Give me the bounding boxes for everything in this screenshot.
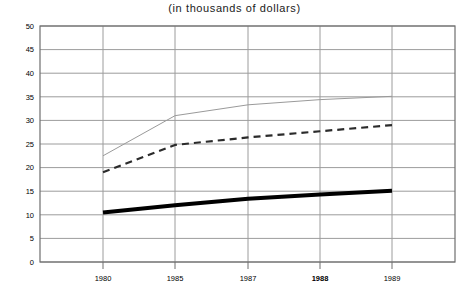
y-tick-label: 35 [26, 93, 34, 102]
chart-container: (in thousands of dollars) 05101520253035… [0, 0, 469, 292]
x-tick-label: 1987 [240, 274, 257, 283]
x-tick-label: 1989 [384, 274, 401, 283]
y-tick-label: 40 [26, 69, 34, 78]
x-tick-label: 1980 [95, 274, 112, 283]
y-tick-label: 50 [26, 22, 34, 31]
y-tick-label: 30 [26, 116, 34, 125]
y-tick-label: 0 [30, 258, 34, 267]
y-tick-label: 15 [26, 187, 34, 196]
y-axis-tick-labels: 05101520253035404550 [26, 22, 34, 267]
grid-lines [40, 26, 455, 269]
y-tick-label: 20 [26, 163, 34, 172]
x-tick-label: 1988 [312, 274, 329, 283]
x-tick-label: 1985 [167, 274, 184, 283]
x-axis-tick-labels: 19801985198719881989 [95, 274, 401, 283]
line-chart-plot: 05101520253035404550 1980198519871988198… [0, 0, 469, 292]
y-tick-label: 10 [26, 211, 34, 220]
y-tick-label: 45 [26, 45, 34, 54]
y-tick-label: 5 [30, 234, 34, 243]
y-tick-label: 25 [26, 140, 34, 149]
